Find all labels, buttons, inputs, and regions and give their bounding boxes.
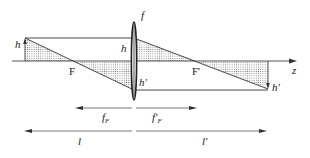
object-height-at-lens-label: h bbox=[121, 42, 127, 54]
image-height-at-lens-label: h' bbox=[139, 76, 148, 88]
lens-label: f bbox=[141, 9, 146, 21]
back-focal-length-arrow-icon bbox=[189, 106, 197, 110]
axis-label: z bbox=[291, 64, 297, 76]
back-focal-length-sub: F bbox=[156, 117, 162, 125]
object-distance-arrow-icon bbox=[24, 129, 32, 133]
front-focal-length-sub: F bbox=[104, 117, 110, 125]
front-focal-length-arrow-icon bbox=[75, 106, 83, 110]
object-height-label: h bbox=[15, 38, 21, 50]
front-focal-length-label: fF bbox=[102, 111, 110, 125]
image-distance-arrow-icon bbox=[259, 129, 267, 133]
front-focus-label: F bbox=[69, 65, 75, 77]
thin-lens-diagram: f h h h' h' F F' z fF f'F l l' bbox=[0, 0, 310, 158]
image-height-label: h' bbox=[272, 81, 281, 93]
back-focal-length-label: f'F bbox=[152, 111, 162, 125]
back-focus-label: F' bbox=[192, 65, 200, 77]
object-distance-label: l bbox=[78, 135, 81, 147]
image-distance-label: l' bbox=[202, 135, 208, 147]
axis-arrow-icon bbox=[289, 59, 297, 64]
